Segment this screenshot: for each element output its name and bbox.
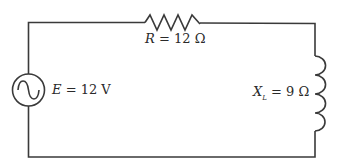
inductor-subscript: L (262, 94, 267, 102)
source-value: = 12 V (66, 82, 111, 97)
source-label: E = 12 V (52, 82, 111, 97)
resistor-symbol (145, 15, 200, 30)
wire-right-bottom (29, 106, 316, 157)
wire-left-top (29, 23, 146, 75)
inductor-value: = 9 Ω (271, 84, 309, 99)
resistor-label: R = 12 Ω (145, 31, 205, 46)
wire-top-right (200, 23, 315, 56)
resistor-value: = 12 Ω (159, 31, 205, 46)
circuit-diagram (0, 0, 338, 166)
inductor-var: X (253, 84, 262, 99)
inductor-symbol (315, 56, 326, 131)
inductor-label: XL = 9 Ω (253, 84, 309, 102)
resistor-var: R (145, 31, 155, 46)
source-var: E (52, 82, 62, 97)
